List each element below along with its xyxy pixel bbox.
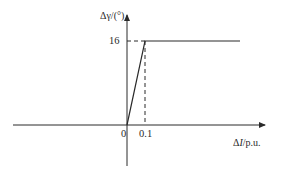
x-tick-0: 0 bbox=[121, 129, 126, 140]
y-tick-16: 16 bbox=[109, 36, 120, 47]
x-tick-0.1: 0.1 bbox=[139, 129, 152, 140]
characteristic-line bbox=[127, 41, 240, 125]
y-axis-label: Δγ/(°) bbox=[100, 11, 124, 21]
x-axis-label: ΔI/p.u. bbox=[233, 138, 261, 148]
